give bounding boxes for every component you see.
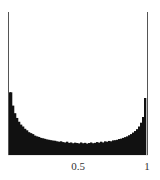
histogram-bar [64, 142, 66, 155]
histogram-bar [76, 143, 78, 155]
histogram-bar [98, 143, 100, 155]
histogram-bar [138, 127, 140, 156]
histogram-bar [116, 140, 118, 155]
histogram-bar [60, 141, 62, 155]
histogram-bar [94, 143, 96, 155]
histogram-bar [22, 127, 24, 156]
histogram-bar [140, 123, 142, 155]
histogram-bar [82, 143, 84, 155]
histogram-bar [58, 142, 60, 155]
histogram-bar [48, 140, 50, 155]
histogram-bar [104, 141, 106, 155]
histogram-bar [86, 144, 88, 155]
histogram-bar [122, 138, 124, 155]
histogram-bar [128, 135, 130, 155]
histogram-bar [124, 137, 126, 155]
histogram-bar [16, 118, 18, 155]
histogram-bar [32, 134, 34, 155]
histogram-bar [28, 132, 30, 155]
histogram-bar [18, 122, 20, 155]
histogram-bar [68, 143, 70, 155]
histogram-bar [106, 142, 108, 155]
histogram-bar [84, 143, 86, 155]
histogram-bar [38, 137, 40, 155]
histogram-bar [20, 125, 22, 155]
histogram-bar [36, 136, 38, 155]
histogram-bar [108, 141, 110, 155]
histogram-bar [50, 140, 52, 155]
histogram-bar [14, 113, 16, 155]
histogram-bar [9, 92, 11, 155]
histogram-bar [40, 138, 42, 155]
histogram-bar [126, 136, 128, 155]
histogram-chart [0, 0, 160, 180]
histogram-bar [54, 141, 56, 155]
histogram-bar [132, 133, 134, 155]
histogram-bar [66, 142, 68, 155]
histogram-bar [102, 142, 104, 155]
histogram-bar [62, 142, 64, 155]
histogram-bar [46, 139, 48, 155]
histogram-bar [136, 129, 138, 155]
histogram-bar [8, 12, 9, 155]
histogram-bar [130, 134, 132, 155]
histogram-bar [118, 139, 120, 155]
histogram-bar [72, 143, 74, 155]
histogram-bar [100, 142, 102, 155]
histogram-bar [142, 117, 144, 155]
histogram-bar [42, 138, 44, 155]
histogram-bar [56, 141, 58, 155]
histogram-bar [134, 131, 136, 155]
x-tick-label-0-5: 0.5 [71, 160, 85, 172]
histogram-bar [26, 130, 28, 155]
histogram-bar [114, 140, 116, 155]
x-tick-label-1: 1 [144, 160, 150, 172]
histogram-bar [44, 139, 46, 155]
histogram-bar [90, 142, 92, 155]
histogram-bars [8, 12, 148, 155]
histogram-bar [34, 136, 36, 155]
histogram-bar [70, 142, 72, 155]
histogram-bar [88, 143, 90, 155]
histogram-bar [80, 142, 82, 155]
histogram-bar [112, 140, 114, 155]
histogram-bar [74, 143, 76, 155]
histogram-bar [12, 106, 14, 155]
histogram-bar [120, 139, 122, 155]
histogram-bar [78, 143, 80, 155]
histogram-bar [110, 141, 112, 155]
histogram-bar [92, 143, 94, 155]
histogram-bar [52, 141, 54, 155]
histogram-bar [144, 98, 146, 155]
histogram-bar [147, 12, 148, 155]
histogram-bar [96, 142, 98, 155]
histogram-bar [30, 133, 32, 155]
histogram-bar [24, 129, 26, 155]
